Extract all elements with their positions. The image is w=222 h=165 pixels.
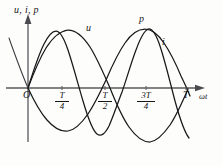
x-tick-quarter-numerator: T: [55, 91, 69, 100]
curve-label-p: p: [139, 14, 144, 24]
x-tick-label-full-period: T: [183, 90, 189, 100]
x-tick-quarter-denominator: 4: [55, 102, 69, 111]
x-tick-three-quarter-denominator: 4: [137, 102, 155, 111]
curve-label-u: u: [86, 23, 91, 33]
x-tick-three-quarter-numerator: 3T: [137, 91, 155, 100]
y-axis-label: u, i, p: [14, 5, 39, 15]
x-axis-label: ωt: [199, 92, 207, 101]
x-tick-half-denominator: 2: [98, 102, 112, 111]
x-tick-half-numerator: T: [98, 91, 112, 100]
curve-i: [28, 29, 190, 131]
x-tick-label-half-period: T 2: [98, 91, 112, 111]
curve-lead-in-segment: [9, 38, 28, 88]
x-tick-label-three-quarter-period: 3T 4: [137, 91, 155, 111]
origin-label: O: [23, 90, 30, 100]
x-tick-label-quarter-period: T 4: [55, 91, 69, 111]
curve-label-i: i: [162, 37, 165, 47]
y-axis-arrowhead: [25, 14, 32, 24]
plot-canvas: [0, 0, 222, 165]
waveform-figure: u, i, p ωt O u p i T 4 T 2 3T 4 T: [0, 0, 222, 165]
